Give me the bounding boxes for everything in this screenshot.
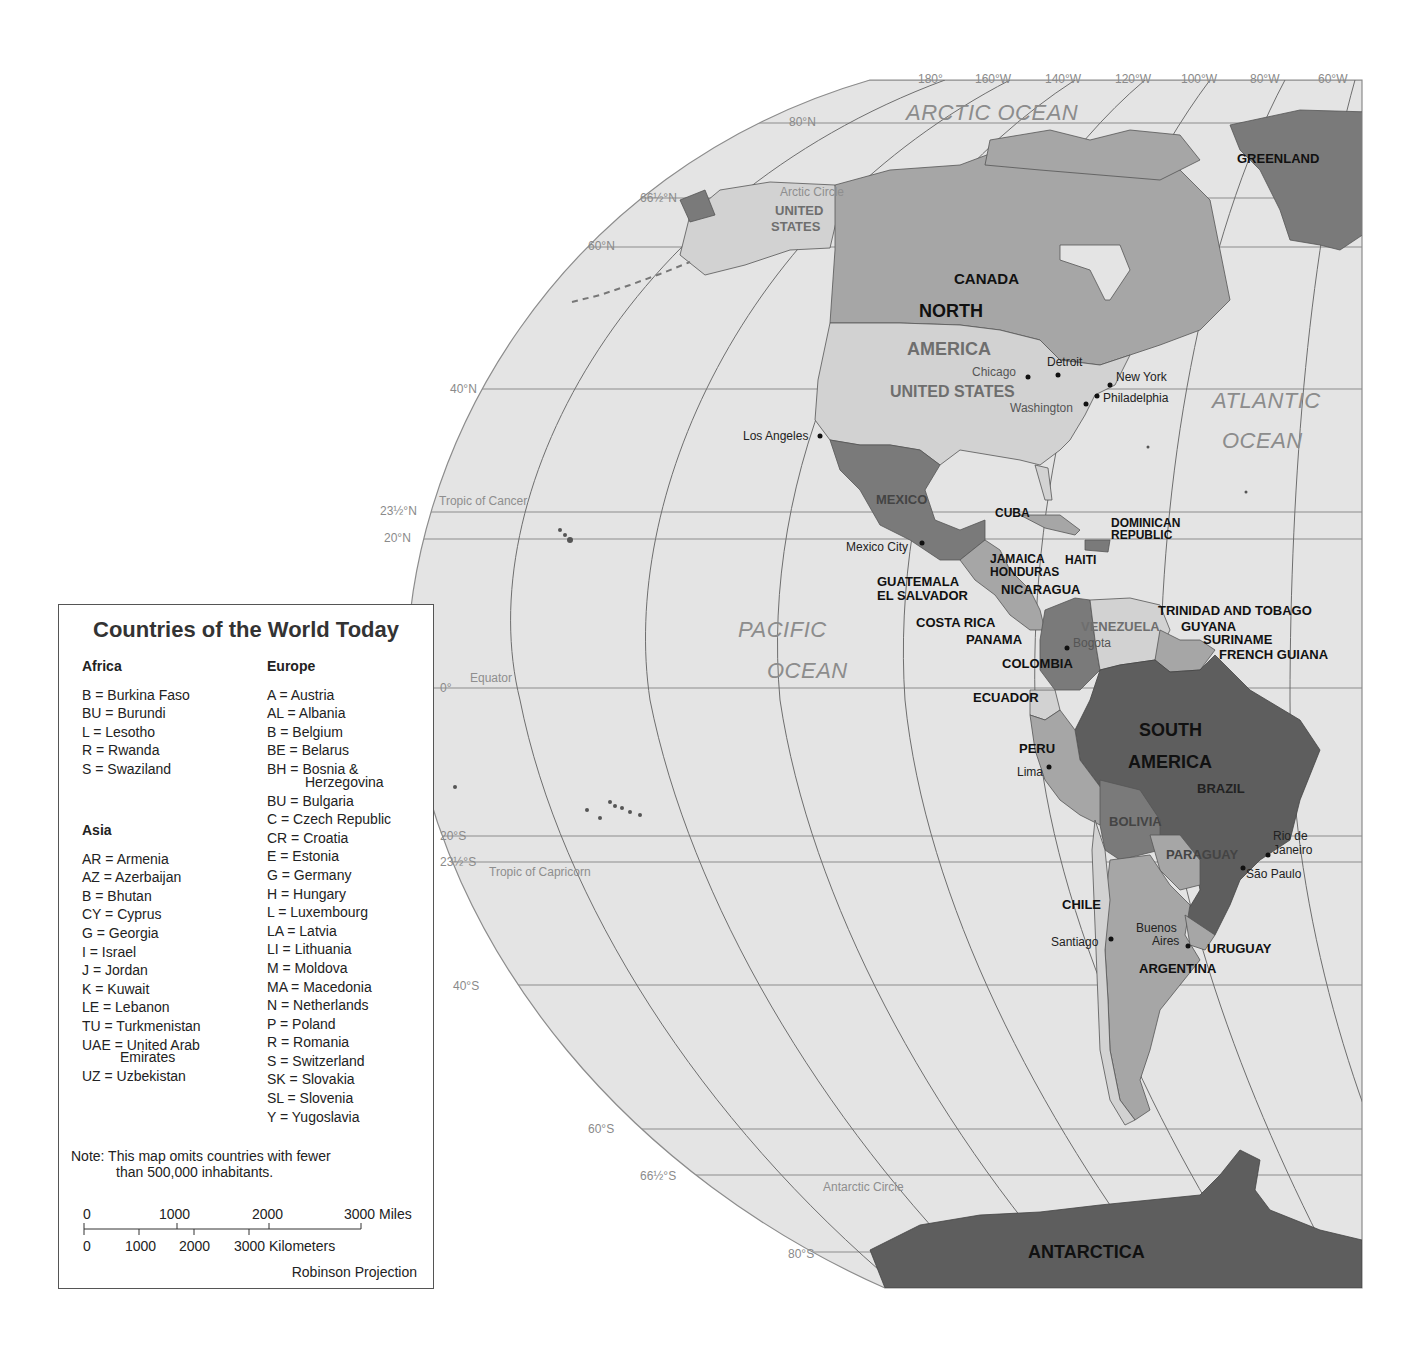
legend-item: MA = Macedonia — [267, 978, 391, 997]
legend-item: LI = Lithuania — [267, 940, 391, 959]
legend-item: UZ = Uzbekistan — [82, 1067, 201, 1086]
country-label: CHILE — [1062, 898, 1101, 911]
legend-note-line: Note: This map omits countries with fewe… — [71, 1148, 331, 1164]
country-label: URUGUAY — [1207, 942, 1272, 955]
country-label: CANADA — [954, 271, 1019, 286]
legend-item: B = Burkina Faso — [82, 686, 190, 705]
legend-item: CR = Croatia — [267, 829, 391, 848]
legend-item: SK = Slovakia — [267, 1070, 391, 1089]
country-label: COSTA RICA — [916, 616, 995, 629]
pacific-ocean-label: OCEAN — [767, 660, 848, 682]
scale-bar-line — [83, 1221, 363, 1237]
map-legend: Countries of the World Today Africa B = … — [58, 604, 434, 1289]
country-label: TRINIDAD AND TOBAGO — [1158, 604, 1312, 617]
scale-miles-label: 3000 Miles — [344, 1207, 412, 1221]
country-label: REPUBLIC — [1111, 529, 1172, 541]
latitude-label: 23½°S — [440, 856, 476, 868]
legend-note: Note: This map omits countries with fewe… — [71, 1148, 331, 1180]
projection-label: Robinson Projection — [292, 1264, 417, 1280]
latitude-label: 60°N — [588, 240, 615, 252]
legend-item: B = Bhutan — [82, 887, 201, 906]
country-label: ANTARCTICA — [1028, 1243, 1145, 1261]
legend-item: P = Poland — [267, 1015, 391, 1034]
legend-item: R = Rwanda — [82, 741, 190, 760]
city-label: Detroit — [1047, 356, 1082, 368]
legend-item: CY = Cyprus — [82, 905, 201, 924]
country-label: NICARAGUA — [1001, 583, 1080, 596]
latitude-label: 80°S — [788, 1248, 814, 1260]
country-label: FRENCH GUIANA — [1219, 648, 1328, 661]
legend-item: S = Swaziland — [82, 760, 190, 779]
legend-item: L = Luxembourg — [267, 903, 391, 922]
scale-km-label: 1000 — [125, 1239, 156, 1253]
atlantic-ocean-label: OCEAN — [1222, 430, 1303, 452]
legend-item: A = Austria — [267, 686, 391, 705]
continent-label-south-america: SOUTH — [1139, 721, 1202, 739]
legend-item: H = Hungary — [267, 885, 391, 904]
legend-item: AR = Armenia — [82, 850, 201, 869]
tropic-of-cancer-label: Tropic of Cancer — [439, 495, 527, 507]
legend-item: B = Belgium — [267, 723, 391, 742]
legend-item: K = Kuwait — [82, 980, 201, 999]
legend-heading-asia: Asia — [82, 821, 201, 840]
land-hispaniola — [1085, 540, 1110, 552]
country-label: STATES — [771, 220, 820, 233]
legend-africa: Africa B = Burkina Faso BU = Burundi L =… — [82, 657, 190, 779]
scale-km-label: 0 — [83, 1239, 91, 1253]
country-label: HAITI — [1065, 554, 1096, 566]
city-label: Philadelphia — [1103, 392, 1168, 404]
country-label: BRAZIL — [1197, 782, 1245, 795]
latitude-label: 40°S — [453, 980, 479, 992]
legend-item: BE = Belarus — [267, 741, 391, 760]
country-label: ARGENTINA — [1139, 962, 1216, 975]
legend-item: J = Jordan — [82, 961, 201, 980]
scale-km-label: 3000 Kilometers — [234, 1239, 335, 1253]
latitude-label: 20°N — [384, 532, 411, 544]
legend-item: L = Lesotho — [82, 723, 190, 742]
legend-item: G = Georgia — [82, 924, 201, 943]
country-label: PERU — [1019, 742, 1055, 755]
legend-item: BU = Burundi — [82, 704, 190, 723]
arctic-ocean-label: ARCTIC OCEAN — [906, 102, 1078, 124]
legend-asia: Asia AR = Armenia AZ = Azerbaijan B = Bh… — [82, 821, 201, 1086]
legend-item: AZ = Azerbaijan — [82, 868, 201, 887]
city-label: Lima — [1017, 766, 1043, 778]
legend-item: SL = Slovenia — [267, 1089, 391, 1108]
longitude-label: 120°W — [1115, 73, 1151, 85]
legend-item: C = Czech Republic — [267, 810, 391, 829]
legend-item: M = Moldova — [267, 959, 391, 978]
country-label: GREENLAND — [1237, 152, 1319, 165]
city-label: Janeiro — [1273, 844, 1312, 856]
antarctic-circle-label: Antarctic Circle — [823, 1181, 904, 1193]
country-label: UNITED — [775, 204, 823, 217]
latitude-label: 80°N — [789, 116, 816, 128]
city-label: Bogota — [1073, 637, 1111, 649]
continent-label-north-america: AMERICA — [907, 340, 991, 358]
longitude-label: 160°W — [975, 73, 1011, 85]
country-label: VENEZUELA — [1081, 620, 1160, 633]
atlantic-ocean-label: ATLANTIC — [1212, 390, 1321, 412]
longitude-label: 60°W — [1318, 73, 1347, 85]
city-label: Los Angeles — [743, 430, 808, 442]
country-label: COLOMBIA — [1002, 657, 1073, 670]
city-label: Buenos — [1136, 922, 1177, 934]
latitude-label: 40°N — [450, 383, 477, 395]
latitude-label: 60°S — [588, 1123, 614, 1135]
legend-item: TU = Turkmenistan — [82, 1017, 201, 1036]
country-label: SURINAME — [1203, 633, 1272, 646]
legend-item: Y = Yugoslavia — [267, 1108, 391, 1127]
continent-label-north-america: NORTH — [919, 302, 983, 320]
city-label: Santiago — [1051, 936, 1098, 948]
equator-label: Equator — [470, 672, 512, 684]
longitude-label: 80°W — [1250, 73, 1279, 85]
country-label: GUATEMALA — [877, 575, 959, 588]
latitude-label: 66½°S — [640, 1170, 676, 1182]
latitude-label: 66½°N — [640, 192, 677, 204]
longitude-label: 140°W — [1045, 73, 1081, 85]
legend-note-line: than 500,000 inhabitants. — [71, 1164, 331, 1180]
legend-item: AL = Albania — [267, 704, 391, 723]
country-label: EL SALVADOR — [877, 589, 968, 602]
country-label: JAMAICA — [990, 553, 1045, 565]
country-label: PARAGUAY — [1166, 848, 1238, 861]
legend-europe: Europe A = Austria AL = Albania B = Belg… — [267, 657, 391, 1126]
